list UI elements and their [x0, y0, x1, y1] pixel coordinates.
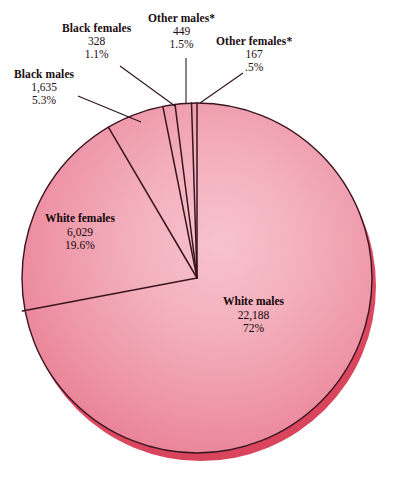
slice-label-count: 167	[216, 48, 292, 61]
slice-label-white-males: White males 22,188 72%	[223, 295, 284, 336]
slice-label-percent: 19.6%	[45, 239, 115, 253]
leader-other-females	[200, 73, 243, 103]
slice-label-black-females: Black females 328 1.1%	[62, 22, 131, 61]
slice-label-count: 6,029	[45, 226, 115, 240]
leader-black-females	[120, 66, 175, 106]
slice-label-percent: 5.3%	[14, 94, 74, 107]
slice-label-other-females: Other females* 167 .5%	[216, 35, 292, 74]
slice-label-name: Other females*	[216, 35, 292, 48]
slice-label-name: Black males	[14, 68, 74, 81]
slice-label-name: Black females	[62, 22, 131, 35]
slice-label-white-females: White females 6,029 19.6%	[45, 212, 115, 253]
slice-label-name: White females	[45, 212, 115, 226]
slice-label-other-males: Other males* 449 1.5%	[148, 12, 215, 51]
slice-label-count: 22,188	[223, 309, 284, 323]
slice-label-count: 449	[148, 25, 215, 38]
leader-black-males	[78, 96, 141, 122]
slice-label-count: 1,635	[14, 81, 74, 94]
pie-chart-figure: Black males 1,635 5.3% Black females 328…	[0, 0, 403, 484]
slice-label-black-males: Black males 1,635 5.3%	[14, 68, 74, 107]
slice-label-name: Other males*	[148, 12, 215, 25]
slice-label-percent: 72%	[223, 322, 284, 336]
slice-label-percent: 1.5%	[148, 38, 215, 51]
slice-label-name: White males	[223, 295, 284, 309]
slice-label-percent: .5%	[216, 61, 292, 74]
slice-label-count: 328	[62, 35, 131, 48]
slice-label-percent: 1.1%	[62, 48, 131, 61]
